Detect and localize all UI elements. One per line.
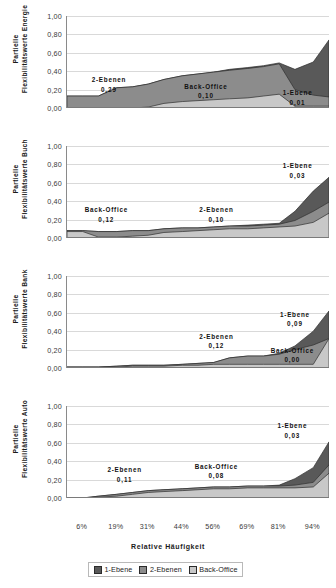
series-annotation: Back-Office0,08: [195, 462, 238, 481]
series-annotation: 2-Ebenen0,29: [92, 75, 126, 94]
annotation-value: 0,11: [107, 475, 141, 485]
multi-panel-area-chart: PartielleFlexibilitätswerte Energie0,000…: [0, 0, 336, 588]
y-axis-tick-label: 0,60: [47, 438, 62, 447]
series-annotation: 1-Ebene0,01: [283, 88, 313, 107]
legend-swatch: [94, 566, 102, 574]
y-axis-tick-label: 0,00: [47, 364, 62, 373]
series-annotation: 1-Ebene0,09: [280, 310, 310, 329]
y-axis-tick-label: 0,60: [47, 178, 62, 187]
y-axis-tick-label: 0,40: [47, 457, 62, 466]
y-axis-tick-label: 0,80: [47, 290, 62, 299]
annotation-value: 0,03: [277, 431, 307, 441]
plot-area: Back-Office0,122-Ebenen0,101-Ebene0,03: [66, 146, 329, 238]
y-axis-tick-label: 0,20: [47, 345, 62, 354]
y-axis-tick-label: 0,40: [47, 197, 62, 206]
axis-baseline: [67, 237, 329, 238]
y-axis-tick-label: 1,00: [47, 12, 62, 21]
legend-item-1-ebene: 1-Ebene: [94, 565, 132, 574]
legend-swatch: [189, 566, 197, 574]
annotation-value: 0,10: [199, 215, 233, 225]
y-axis-title-line1: Partielle: [11, 165, 20, 194]
annotation-label: 2-Ebenen: [199, 205, 233, 215]
plot-area: 2-Ebenen0,12Back-Office0,001-Ebene0,09: [66, 276, 329, 368]
plot-area: 2-Ebenen0,29Back-Office0,101-Ebene0,01: [66, 16, 329, 108]
annotation-value: 0,01: [283, 98, 313, 108]
x-axis-title: Relative Häufigkeit: [0, 543, 336, 550]
y-axis-tick-label: 0,80: [47, 30, 62, 39]
y-axis-title-line1: Partielle: [11, 425, 20, 454]
y-axis-tick-label: 0,00: [47, 494, 62, 503]
x-axis-tick-label: 94%: [305, 522, 320, 531]
x-axis-tick-label: 31%: [140, 522, 155, 531]
y-axis-tick-label: 0,80: [47, 420, 62, 429]
y-axis-title-line1: Partielle: [11, 35, 20, 64]
y-axis-tick-label: 1,00: [47, 142, 62, 151]
annotation-label: Back-Office: [271, 346, 314, 356]
annotation-value: 0,12: [85, 215, 128, 225]
annotation-label: Back-Office: [184, 82, 227, 92]
series-annotation: Back-Office0,12: [85, 205, 128, 224]
annotation-label: Back-Office: [85, 205, 128, 215]
y-axis-tick-label: 0,00: [47, 104, 62, 113]
legend-label: 2-Ebenen: [150, 565, 182, 574]
axis-baseline: [67, 497, 329, 498]
annotation-value: 0,00: [271, 355, 314, 365]
y-axis-tick-label: 0,20: [47, 215, 62, 224]
annotation-label: 1-Ebene: [277, 421, 307, 431]
annotation-value: 0,29: [92, 85, 126, 95]
chart-legend: 1-Ebene2-EbenenBack-Office: [88, 562, 243, 577]
x-axis-tick-label: 81%: [271, 522, 286, 531]
annotation-value: 0,03: [283, 171, 313, 181]
annotation-value: 0,10: [184, 91, 227, 101]
y-axis-tick-label: 0,40: [47, 67, 62, 76]
legend-item-back-office: Back-Office: [189, 565, 238, 574]
x-axis-ticks: 6%19%31%44%56%69%81%94%: [66, 522, 328, 536]
y-axis-tick-label: 0,20: [47, 85, 62, 94]
panel-energie: PartielleFlexibilitätswerte Energie0,000…: [0, 2, 336, 130]
y-axis-tick-label: 0,20: [47, 475, 62, 484]
x-axis-tick-label: 56%: [205, 522, 220, 531]
y-axis-tick-label: 0,00: [47, 234, 62, 243]
series-annotation: Back-Office0,10: [184, 82, 227, 101]
annotation-label: Back-Office: [195, 462, 238, 472]
panel-buch: PartielleFlexibilitätswerte Buch0,000,20…: [0, 132, 336, 260]
x-axis-tick-label: 19%: [108, 522, 123, 531]
x-axis-tick-label: 44%: [174, 522, 189, 531]
plot-area: 2-Ebenen0,11Back-Office0,081-Ebene0,03: [66, 406, 329, 498]
y-axis-ticks: 0,000,200,400,600,801,00: [28, 262, 62, 372]
axis-baseline: [67, 367, 329, 368]
y-axis-tick-label: 0,60: [47, 308, 62, 317]
series-annotation: 2-Ebenen0,11: [107, 465, 141, 484]
annotation-value: 0,09: [280, 319, 310, 329]
series-annotation: Back-Office0,00: [271, 346, 314, 365]
y-axis-tick-label: 0,80: [47, 160, 62, 169]
y-axis-tick-label: 1,00: [47, 272, 62, 281]
series-annotation: 2-Ebenen0,10: [199, 205, 233, 224]
legend-item-2-ebenen: 2-Ebenen: [139, 565, 181, 574]
annotation-label: 2-Ebenen: [199, 332, 233, 342]
annotation-label: 1-Ebene: [283, 161, 313, 171]
y-axis-tick-label: 1,00: [47, 402, 62, 411]
legend-label: 1-Ebene: [105, 565, 133, 574]
y-axis-title-line1: Partielle: [11, 295, 20, 324]
series-annotation: 2-Ebenen0,12: [199, 332, 233, 351]
panel-bank: PartielleFlexibilitätswerte Bank0,000,20…: [0, 262, 336, 390]
annotation-label: 2-Ebenen: [107, 465, 141, 475]
series-annotation: 1-Ebene0,03: [283, 161, 313, 180]
panel-auto: PartielleFlexibilitätswerte Auto0,000,20…: [0, 392, 336, 520]
annotation-value: 0,12: [199, 341, 233, 351]
annotation-value: 0,08: [195, 471, 238, 481]
stacked-area-series: [67, 406, 329, 498]
x-axis-tick-label: 69%: [239, 522, 254, 531]
y-axis-tick-label: 0,40: [47, 327, 62, 336]
annotation-label: 2-Ebenen: [92, 75, 126, 85]
y-axis-ticks: 0,000,200,400,600,801,00: [28, 2, 62, 112]
legend-swatch: [139, 566, 147, 574]
y-axis-tick-label: 0,60: [47, 48, 62, 57]
y-axis-ticks: 0,000,200,400,600,801,00: [28, 132, 62, 242]
annotation-label: 1-Ebene: [280, 310, 310, 320]
annotation-label: 1-Ebene: [283, 88, 313, 98]
legend-label: Back-Office: [199, 565, 237, 574]
series-annotation: 1-Ebene0,03: [277, 421, 307, 440]
y-axis-ticks: 0,000,200,400,600,801,00: [28, 392, 62, 502]
